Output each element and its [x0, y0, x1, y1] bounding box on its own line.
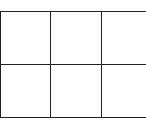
- grid-diagram: [0, 11, 146, 118]
- grid-cell: [102, 12, 146, 64]
- grid-bottom-line: [0, 117, 146, 118]
- grid-cell: [1, 65, 50, 117]
- grid-cell: [1, 12, 50, 64]
- grid-cell: [51, 12, 101, 64]
- grid-cell: [51, 65, 101, 117]
- grid-cell: [102, 65, 146, 117]
